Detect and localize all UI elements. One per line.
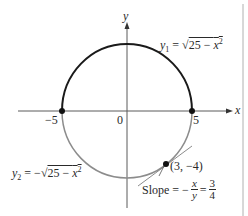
eq-upper-exp: 2 (219, 37, 223, 46)
frac2-den: 4 (209, 190, 217, 201)
point-neg5 (59, 108, 65, 114)
slope-frac-xy: xy (191, 178, 198, 201)
equation-upper: y1 = √25 − x2 (160, 38, 223, 54)
eq-upper-sub: 1 (165, 45, 169, 54)
origin-label: 0 (117, 114, 123, 126)
slope-equals: = (200, 184, 207, 196)
point-3-neg4 (163, 161, 169, 167)
x-axis-label: x (235, 104, 240, 116)
eq-lower-equals: = − (24, 166, 41, 180)
tick-label-neg5: −5 (45, 114, 58, 126)
circle-diagram: y x 0 −5 5 y1 = √25 − x2 y2 = −√25 − x2 … (0, 0, 248, 216)
eq-lower-exp: 2 (78, 165, 82, 174)
slope-prefix: Slope = − (142, 184, 189, 196)
y-axis-arrow-icon (125, 22, 130, 29)
x-axis-arrow-icon (226, 109, 233, 114)
slope-label: Slope = − xy = 34 (142, 178, 216, 201)
frac1-den: y (191, 190, 198, 201)
eq-lower-radicand-const: 25 − (47, 166, 72, 180)
eq-lower-sub: 2 (17, 173, 21, 182)
y-axis-label: y (123, 10, 128, 22)
eq-upper-radicand-const: 25 − (189, 38, 214, 52)
sqrt-icon: √ (182, 38, 189, 52)
tick-label-pos5: 5 (193, 114, 199, 126)
slope-frac-value: 34 (209, 178, 217, 201)
equation-lower: y2 = −√25 − x2 (12, 166, 82, 182)
eq-upper-equals: = (172, 38, 179, 52)
point-label: (3, −4) (170, 160, 203, 172)
